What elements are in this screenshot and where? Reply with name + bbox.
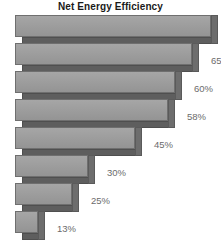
bar-front-face [15,211,38,233]
bar-8[interactable] [15,211,45,240]
bar-front-face [15,71,175,93]
bar-6[interactable] [15,155,95,184]
bar-side-face [175,71,182,100]
bar-row: 30% [0,155,221,184]
bar-side-face [38,211,45,240]
bar-2[interactable] [15,43,199,72]
bar-row: 25% [0,183,221,212]
bar-front-face [15,43,192,65]
bar-side-face [88,155,95,184]
bar-side-face [72,183,79,212]
bar-1[interactable] [15,15,218,44]
bar-value-label: 13% [57,224,76,234]
bar-4[interactable] [15,99,175,128]
chart-container: Net Energy Efficiency 65%60%58%45%30%25%… [0,0,221,245]
bar-value-label: 45% [154,140,173,150]
bar-value-label: 30% [107,168,126,178]
bar-side-face [135,127,142,156]
bar-front-face [15,15,211,37]
bar-row: 13% [0,211,221,240]
bar-side-face [168,99,175,128]
plot-area: 65%60%58%45%30%25%13% [0,15,221,245]
bar-5[interactable] [15,127,142,156]
bar-side-face [211,15,218,44]
bar-3[interactable] [15,71,182,100]
bar-front-face [15,99,168,121]
bar-row: 45% [0,127,221,156]
bar-side-face [192,43,199,72]
bar-7[interactable] [15,183,79,212]
bar-row: 60% [0,71,221,100]
bar-front-face [15,127,135,149]
bar-value-label: 60% [194,84,213,94]
bar-value-label: 58% [187,112,206,122]
bar-row: 58% [0,99,221,128]
chart-title: Net Energy Efficiency [0,1,221,12]
bar-front-face [15,155,88,177]
bar-value-label: 65% [211,56,221,66]
bar-value-label: 25% [91,196,110,206]
bar-row [0,15,221,44]
bar-row: 65% [0,43,221,72]
bar-front-face [15,183,72,205]
